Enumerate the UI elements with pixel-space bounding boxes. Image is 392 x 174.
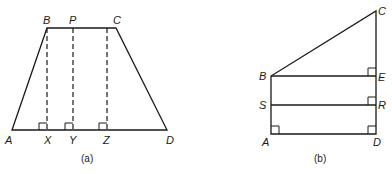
- figure-a: B P C A X Y Z D (a): [4, 14, 174, 164]
- right-angle-marker-y: [65, 123, 73, 130]
- label-b-b: B: [259, 70, 266, 82]
- right-angle-marker-d: [368, 126, 376, 134]
- label-x: X: [43, 134, 52, 146]
- label-s: S: [259, 99, 267, 111]
- label-p: P: [69, 14, 77, 26]
- label-r: R: [378, 99, 386, 111]
- label-e: E: [378, 71, 386, 83]
- caption-b: (b): [314, 153, 326, 164]
- right-angle-marker-r: [368, 97, 376, 105]
- label-d: D: [166, 134, 174, 146]
- trapezium-abcd-b: [271, 11, 376, 134]
- label-a-b: A: [261, 136, 269, 148]
- label-c-b: C: [378, 5, 386, 17]
- trapezium-abcd: [12, 28, 167, 130]
- right-angle-marker-e: [368, 68, 376, 76]
- label-a: A: [4, 134, 12, 146]
- label-b: B: [43, 14, 50, 26]
- right-angle-marker-a: [271, 126, 279, 134]
- label-z: Z: [102, 134, 111, 146]
- label-c: C: [113, 14, 121, 26]
- right-angle-marker-z: [99, 123, 107, 130]
- right-angle-marker-x: [39, 123, 47, 130]
- diagram-canvas: B P C A X Y Z D (a) C B E S R A D (b): [0, 0, 392, 174]
- label-d-b: D: [373, 136, 381, 148]
- figure-b: C B E S R A D (b): [259, 5, 386, 164]
- caption-a: (a): [81, 153, 93, 164]
- label-y: Y: [69, 134, 77, 146]
